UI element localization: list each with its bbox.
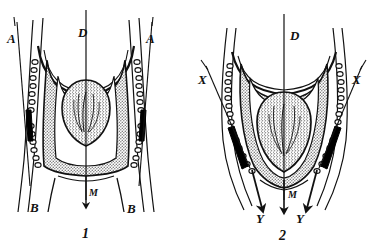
label-B-right-1: B	[126, 201, 136, 216]
figure-number-1: 1	[82, 226, 89, 241]
label-M-1: M	[88, 187, 99, 198]
label-X-left-2: X	[197, 72, 207, 87]
label-X-right-2: X	[351, 72, 361, 87]
label-A-right-1: A	[145, 31, 155, 46]
label-D-1: D	[77, 25, 88, 40]
figure-number-2: 2	[278, 228, 286, 243]
label-M-2: M	[287, 189, 298, 200]
figure-root: A A D B B M 1	[0, 0, 369, 243]
label-B-left-1: B	[29, 200, 39, 215]
label-Y-right-2: Y	[296, 211, 305, 226]
label-A-left-1: A	[6, 31, 16, 46]
label-D-2: D	[289, 28, 300, 43]
anatomical-diagram-svg: A A D B B M 1	[0, 0, 369, 243]
label-Y-left-2: Y	[256, 211, 265, 226]
